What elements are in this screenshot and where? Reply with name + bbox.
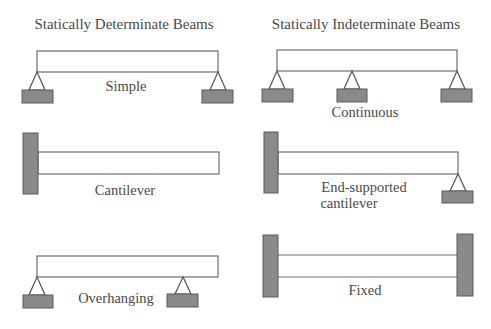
pin-support-icon: [344, 71, 360, 89]
support-base: [22, 90, 53, 103]
determinate-title: Statically Determinate Beams: [34, 16, 213, 32]
cantilever-beam: [38, 152, 219, 174]
pin-support-icon: [29, 277, 45, 295]
pin-support-icon: [175, 277, 191, 294]
pin-support-icon: [29, 72, 45, 90]
support-base: [202, 90, 233, 103]
end-supported-beam: [278, 152, 458, 174]
diagram-svg: Statically Determinate Beams Statically …: [0, 0, 491, 329]
fixed-wall: [23, 133, 38, 194]
simple-label: Simple: [105, 78, 146, 94]
simple-beam-diagram: Simple: [22, 51, 233, 103]
fixed-wall-right: [457, 234, 473, 296]
pin-support-icon: [450, 174, 466, 191]
end-supported-label-line1: End-supported: [321, 179, 407, 195]
support-base: [23, 295, 53, 308]
support-base: [262, 89, 293, 102]
overhanging-label: Overhanging: [78, 290, 154, 306]
overhanging-beam-diagram: Overhanging: [23, 256, 218, 308]
continuous-beam-diagram: Continuous: [262, 50, 472, 120]
support-base: [337, 89, 367, 102]
cantilever-beam-diagram: Cantilever: [23, 133, 219, 198]
fixed-wall: [264, 132, 278, 193]
end-supported-label-line2: cantilever: [320, 195, 377, 211]
pin-support-icon: [449, 71, 465, 89]
pin-support-icon: [210, 72, 226, 90]
fixed-label: Fixed: [348, 282, 382, 298]
support-base: [441, 89, 472, 102]
continuous-beam: [277, 50, 457, 71]
fixed-wall-left: [263, 235, 278, 297]
indeterminate-title: Statically Indeterminate Beams: [272, 16, 460, 32]
fixed-beam-diagram: Fixed: [263, 234, 473, 298]
simple-beam: [37, 51, 218, 72]
end-supported-cantilever-diagram: End-supported cantilever: [264, 132, 473, 211]
pin-support-icon: [269, 71, 285, 89]
support-base: [167, 294, 198, 307]
overhanging-beam: [37, 256, 218, 277]
beam-types-diagram: Statically Determinate Beams Statically …: [0, 0, 491, 329]
continuous-label: Continuous: [332, 104, 399, 120]
support-base: [442, 191, 473, 203]
cantilever-label: Cantilever: [95, 182, 156, 198]
